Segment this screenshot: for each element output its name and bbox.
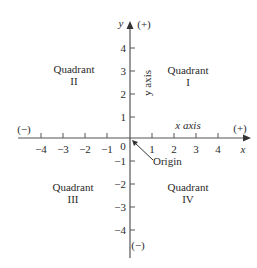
quadrant-2-word: Quadrant xyxy=(54,63,95,75)
x-axis-label: x axis xyxy=(174,119,200,131)
x-axis-positive-sign: (+) xyxy=(233,122,247,135)
x-tick-label: −1 xyxy=(101,143,113,155)
y-axis-positive-sign: (+) xyxy=(137,18,151,31)
y-tick-label: 2 xyxy=(121,88,127,100)
x-axis-name: x xyxy=(240,143,246,155)
y-tick-label: 1 xyxy=(121,111,127,123)
coordinate-plane: −4 −3 −2 −1 1 2 3 4 0 4 3 2 1 −1 −2 −3 −… xyxy=(0,0,257,268)
quadrant-1-numeral: I xyxy=(186,76,190,88)
origin-zero-label: 0 xyxy=(120,140,126,152)
quadrant-3-numeral: III xyxy=(68,193,79,205)
y-axis-label: y axis xyxy=(141,70,153,96)
x-tick-label: −4 xyxy=(35,143,47,155)
y-tick-label: −4 xyxy=(114,224,126,236)
quadrant-4-word: Quadrant xyxy=(168,181,209,193)
x-tick-label: −2 xyxy=(79,143,91,155)
y-tick-label: −3 xyxy=(114,201,126,213)
x-axis-negative-sign: (−) xyxy=(17,123,31,136)
y-axis-name: y xyxy=(118,17,124,29)
x-tick-label: 3 xyxy=(193,143,199,155)
x-tick-labels: −4 −3 −2 −1 1 2 3 4 xyxy=(35,143,221,155)
quadrant-2-numeral: II xyxy=(70,75,78,87)
y-tick-labels: 4 3 2 1 −1 −2 −3 −4 xyxy=(114,42,126,236)
x-tick-label: 2 xyxy=(171,143,177,155)
y-tick-label: −2 xyxy=(114,178,126,190)
x-axis-label-text: x axis xyxy=(174,119,200,131)
quadrant-3-word: Quadrant xyxy=(53,181,94,193)
y-tick-label: 3 xyxy=(121,65,127,77)
quadrant-4-numeral: IV xyxy=(182,193,194,205)
y-tick-label: −1 xyxy=(114,155,126,167)
origin-label: Origin xyxy=(153,155,182,167)
quadrant-1-word: Quadrant xyxy=(168,64,209,76)
y-axis-arrow-icon xyxy=(127,21,134,29)
x-tick-label: 1 xyxy=(149,143,155,155)
x-axis-arrow-icon xyxy=(243,135,251,142)
y-tick-label: 4 xyxy=(121,42,127,54)
x-tick-label: 4 xyxy=(215,143,221,155)
y-axis-negative-sign: (−) xyxy=(131,239,145,252)
y-axis-ticks xyxy=(130,48,135,230)
x-tick-label: −3 xyxy=(57,143,69,155)
